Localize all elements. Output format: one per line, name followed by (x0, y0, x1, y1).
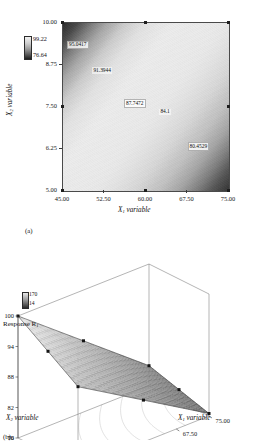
surface-x-tick-label: 75.00 (216, 417, 230, 424)
surface-data-point (148, 364, 151, 367)
contour-y-tick-label: 6.25 (33, 145, 57, 151)
contour-y-tick-label: 7.50 (33, 103, 57, 109)
surface-data-point (82, 339, 85, 342)
contour-y-axis-label: X2 variable (7, 78, 14, 122)
contour-colorbar-min: 76.64 (33, 51, 47, 58)
contour-y-tickmark (59, 148, 62, 149)
surface-colorbar-gradient (22, 292, 29, 309)
contour-x-tickmark (103, 190, 104, 193)
surface-z-axis-label-base: Response R (3, 320, 36, 328)
contour-x-axis-label-tail: variable (125, 206, 151, 214)
surface-data-point (47, 350, 50, 353)
surface-z-tick-label: 100 (4, 312, 14, 319)
contour-colorbar-max: 99.22 (33, 35, 47, 42)
surface-frame-ceiling (18, 264, 209, 316)
surface-x-tickmark (176, 429, 179, 431)
contour-axis-marker (227, 189, 230, 192)
surface-plot-svg: 100948882761045.0052.5060.0067.5075.008.… (0, 240, 263, 440)
surface-z-axis-label: Response R1 (3, 320, 39, 328)
surface-mesh (18, 316, 209, 414)
contour-y-tick-label: 10.00 (33, 19, 57, 25)
contour-axis-marker (227, 105, 230, 108)
contour-x-axis-label: X1 variable (118, 207, 150, 214)
contour-x-tickmark (186, 190, 187, 193)
surface-y-axis-label-tail: variable (13, 414, 39, 422)
surface-floor-contour-line (100, 405, 123, 440)
contour-axis-marker (61, 105, 64, 108)
contour-value-label: 80.4529 (188, 142, 210, 150)
surface-z-tick-label: 94 (8, 343, 15, 350)
contour-y-tick-label: 5.00 (33, 187, 57, 193)
surface-data-point (142, 399, 145, 402)
contour-x-tick-label: 52.50 (94, 196, 114, 202)
surface-x-tick-label: 67.50 (183, 430, 197, 437)
panel-b: 100948882761045.0052.5060.0067.5075.008.… (0, 240, 263, 440)
contour-value-label: 87.7472 (124, 99, 146, 107)
contour-value-label: 91.3944 (92, 67, 112, 73)
panel-a-label: (a) (25, 228, 33, 235)
surface-x-axis-label: X1 variable (178, 415, 210, 422)
contour-y-tickmark (59, 64, 62, 65)
surface-data-point (77, 385, 80, 388)
contour-axis-marker (61, 189, 64, 192)
surface-z-tick-label: 88 (8, 373, 14, 380)
contour-axis-marker (144, 21, 147, 24)
contour-value-label: 84.1 (159, 109, 170, 115)
contour-x-tick-label: 45.00 (52, 196, 72, 202)
contour-y-axis-label-tail: variable (6, 83, 14, 109)
contour-axis-marker (61, 21, 64, 24)
surface-floor-contour-line (121, 396, 144, 440)
contour-x-tick-label: 67.50 (177, 196, 197, 202)
contour-x-tick-label: 60.00 (135, 196, 155, 202)
surface-y-axis-label: X2 variable (6, 415, 38, 422)
surface-data-point (178, 388, 181, 391)
contour-x-tick-label: 75.00 (218, 196, 238, 202)
contour-value-label: 95.0417 (67, 41, 89, 49)
contour-colorbar-gradient (24, 36, 32, 60)
surface-floor-contour-line (79, 413, 102, 440)
surface-colorbar-max: 170 (29, 291, 37, 297)
figure-container: 99.22 76.64 X2 variable X1 variable (a) … (0, 0, 263, 446)
contour-y-axis-label-base: X (6, 112, 14, 116)
surface-z-tick-label: 82 (8, 404, 14, 411)
contour-y-tick-label: 8.75 (33, 61, 57, 67)
panel-b-label: (b) (3, 434, 11, 441)
surface-z-axis-label-sub: 1 (36, 323, 38, 328)
surface-colorbar-min: 14 (29, 300, 35, 306)
contour-axis-marker (227, 21, 230, 24)
contour-axis-marker (144, 189, 147, 192)
surface-x-axis-label-tail: variable (185, 414, 211, 422)
